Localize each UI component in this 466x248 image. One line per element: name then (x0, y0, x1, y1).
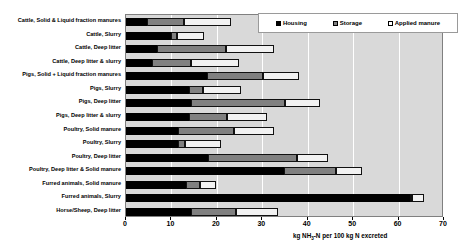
bar-segment-applied (336, 167, 362, 175)
bar-row (126, 181, 444, 189)
applied-manure-swatch-icon (388, 21, 393, 26)
stacked-bar-chart: Cattle, Solid & Liquid fraction manuresC… (0, 0, 466, 248)
category-label: Poultry, Slurry (83, 140, 121, 146)
bar-segment-applied (285, 99, 320, 107)
bar-segment-storage (186, 181, 200, 189)
x-axis-tick-label: 30 (257, 220, 265, 227)
category-label: Pigs, Solid + Liquid fraction manures (22, 72, 121, 78)
x-axis-title-suffix: -N per 100 kg N excreted (314, 232, 388, 239)
category-label: Pigs, Deep litter & slurry (56, 113, 121, 119)
bar-segment-housing (126, 154, 208, 162)
bar-segment-housing (126, 113, 189, 121)
bar-segment-housing (126, 208, 191, 216)
category-label: Horse/Sheep, Deep litter (56, 208, 121, 214)
x-axis-tick-label: 0 (123, 220, 127, 227)
legend-label-storage: Storage (340, 20, 362, 26)
bar-segment-storage (284, 167, 336, 175)
bar-segment-applied (226, 45, 274, 53)
bar-segment-applied (412, 194, 424, 202)
gridline (444, 15, 445, 216)
chart-legend: Housing Storage Applied manure (258, 13, 458, 33)
bar-segment-applied (227, 113, 267, 121)
bar-segment-applied (184, 18, 231, 26)
bar-row (126, 113, 444, 121)
bar-segment-housing (126, 167, 284, 175)
housing-swatch-icon (276, 21, 281, 26)
x-axis-title: kg NH3-N per 100 kg N excreted (293, 232, 387, 241)
bar-row (126, 167, 444, 175)
legend-item-housing: Housing (276, 20, 307, 26)
bar-row (126, 86, 444, 94)
storage-swatch-icon (333, 21, 338, 26)
bar-segment-storage (189, 113, 227, 121)
x-axis-tick-label: 60 (394, 220, 402, 227)
category-label: Cattle, Deep litter & slurry (52, 59, 121, 65)
bar-segment-storage (208, 154, 297, 162)
bar-segment-housing (126, 140, 178, 148)
bar-row (126, 72, 444, 80)
bar-segment-applied (203, 86, 241, 94)
bar-segment-housing (126, 59, 152, 67)
legend-item-applied-manure: Applied manure (388, 20, 440, 26)
legend-item-storage: Storage (333, 20, 362, 26)
bar-segment-applied (200, 181, 216, 189)
bar-segment-housing (126, 99, 191, 107)
bar-segment-applied (234, 127, 274, 135)
bar-row (126, 140, 444, 148)
bar-segment-housing (126, 181, 186, 189)
bar-segment-storage (207, 72, 263, 80)
category-label: Cattle, Solid & Liquid fraction manures (18, 18, 121, 24)
category-label: Poultry, Deep litter & Solid manure (29, 167, 121, 173)
bar-segment-applied (263, 72, 299, 80)
bar-row (126, 127, 444, 135)
bar-segment-housing (126, 72, 207, 80)
category-label: Cattle, Deep litter (75, 45, 121, 51)
legend-label-housing: Housing (283, 20, 307, 26)
plot-area (125, 14, 443, 217)
bar-row (126, 194, 444, 202)
bar-row (126, 208, 444, 216)
bar-segment-applied (185, 140, 221, 148)
x-axis-tick-label: 40 (303, 220, 311, 227)
bar-segment-storage (189, 86, 203, 94)
category-label: Furred animals, Slurry (62, 194, 121, 200)
bar-segment-applied (191, 59, 239, 67)
bar-row (126, 45, 444, 53)
bar-segment-applied (297, 154, 328, 162)
x-axis-tick-label: 20 (212, 220, 220, 227)
category-label: Cattle, Slurry (86, 32, 121, 38)
bar-segment-applied (236, 208, 278, 216)
legend-label-applied-manure: Applied manure (395, 20, 440, 26)
bar-row (126, 154, 444, 162)
x-axis: 010203040506070 (125, 217, 443, 227)
bar-segment-storage (178, 127, 234, 135)
category-label: Furred animals, Solid manure (42, 181, 121, 187)
bar-segment-applied (177, 32, 204, 40)
x-axis-tick-label: 50 (348, 220, 356, 227)
category-label: Poultry, Deep litter (72, 154, 121, 160)
bar-segment-storage (147, 18, 184, 26)
bar-segment-storage (191, 99, 285, 107)
bar-row (126, 99, 444, 107)
bar-segment-housing (126, 86, 189, 94)
x-axis-tick-label: 10 (167, 220, 175, 227)
bar-segment-housing (126, 18, 147, 26)
x-axis-title-prefix: kg NH (293, 232, 311, 239)
category-axis-labels: Cattle, Solid & Liquid fraction manuresC… (0, 14, 123, 217)
bar-segment-storage (191, 208, 236, 216)
bar-segment-storage (178, 140, 185, 148)
bar-segment-housing (126, 127, 178, 135)
category-label: Pigs, Slurry (90, 86, 121, 92)
bar-segment-housing (126, 32, 171, 40)
bar-segment-storage (157, 45, 226, 53)
bar-row (126, 59, 444, 67)
bar-segment-storage (152, 59, 191, 67)
bar-segment-housing (126, 194, 410, 202)
x-axis-tick-label: 70 (439, 220, 447, 227)
category-label: Poultry, Solid manure (64, 127, 121, 133)
bar-segment-housing (126, 45, 157, 53)
category-label: Pigs, Deep litter (79, 99, 121, 105)
